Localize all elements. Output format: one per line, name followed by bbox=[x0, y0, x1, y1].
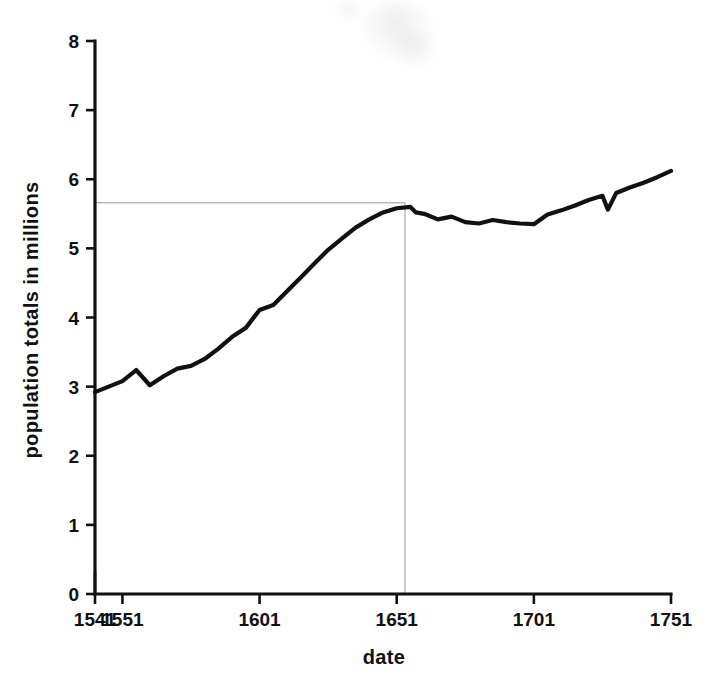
guide-annotations bbox=[95, 203, 405, 594]
y-axis-tick-labels: 012345678 bbox=[68, 31, 79, 605]
y-tick-label: 5 bbox=[68, 238, 79, 259]
y-tick-label: 2 bbox=[68, 446, 79, 467]
line-chart: 012345678 154115511601165117011751 date … bbox=[0, 0, 713, 680]
x-axis-ticks bbox=[95, 572, 671, 604]
x-tick-label: 1551 bbox=[101, 609, 144, 630]
y-tick-label: 1 bbox=[68, 515, 79, 536]
x-axis-title: date bbox=[363, 646, 406, 668]
y-tick-label: 0 bbox=[68, 584, 79, 605]
x-tick-label: 1701 bbox=[513, 609, 556, 630]
x-tick-label: 1751 bbox=[650, 609, 693, 630]
x-axis-tick-labels: 154115511601165117011751 bbox=[74, 609, 693, 630]
y-tick-label: 8 bbox=[68, 31, 79, 52]
population-series-line bbox=[95, 171, 671, 392]
y-axis-title: population totals in millions bbox=[20, 181, 42, 458]
x-tick-label: 1651 bbox=[376, 609, 419, 630]
y-tick-label: 4 bbox=[68, 308, 79, 329]
axes bbox=[86, 41, 671, 604]
y-tick-label: 6 bbox=[68, 169, 79, 190]
chart-figure: 012345678 154115511601165117011751 date … bbox=[0, 0, 713, 680]
y-tick-label: 3 bbox=[68, 377, 79, 398]
y-tick-label: 7 bbox=[68, 100, 79, 121]
x-tick-label: 1601 bbox=[238, 609, 281, 630]
